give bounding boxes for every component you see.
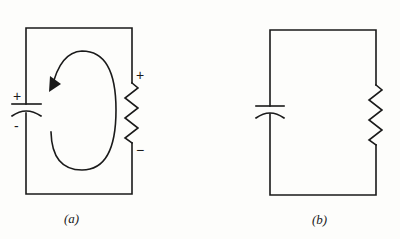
circuit-a: + - + − (a)	[12, 28, 144, 226]
wire-left-top	[26, 28, 132, 104]
resistor-minus-label: −	[136, 142, 144, 158]
caption-a: (a)	[64, 211, 79, 226]
circuit-b: (b)	[256, 30, 382, 227]
capacitor-minus-label: -	[14, 118, 19, 134]
capacitor-plus-label: +	[13, 88, 21, 104]
loop-arrow-icon	[49, 51, 116, 170]
resistor-icon	[125, 83, 138, 143]
wire-left-top	[270, 30, 376, 106]
circuit-diagram: + - + − (a) (b)	[0, 0, 400, 239]
resistor-plus-label: +	[136, 67, 144, 83]
wire-bottom	[270, 114, 376, 195]
resistor-icon	[369, 85, 382, 145]
caption-b: (b)	[312, 212, 327, 227]
